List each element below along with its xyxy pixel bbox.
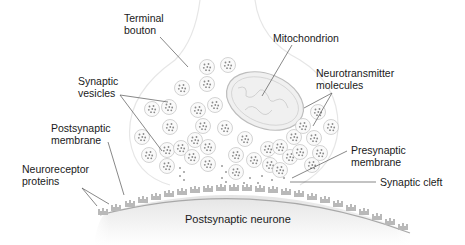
- label-postsynaptic-membrane: Postsynaptic membrane: [51, 122, 111, 146]
- label-postsynaptic-neurone: Postsynaptic neurone: [185, 213, 291, 225]
- label-terminal-bouton: Terminal bouton: [124, 12, 164, 36]
- label-neuroreceptor-proteins: Neuroreceptor proteins: [22, 163, 89, 187]
- label-synaptic-vesicles: Synaptic vesicles: [78, 75, 118, 99]
- label-mitochondrion: Mitochondrion: [273, 32, 339, 44]
- label-presynaptic-membrane: Presynaptic membrane: [351, 144, 406, 168]
- label-neurotransmitter-molecules: Neurotransmitter molecules: [316, 67, 394, 91]
- label-synaptic-cleft: Synaptic cleft: [380, 176, 442, 188]
